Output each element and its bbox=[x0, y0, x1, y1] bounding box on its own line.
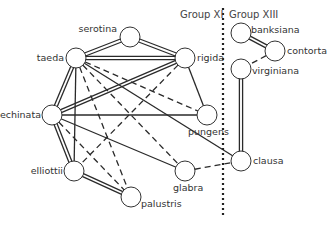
node-label-taeda: taeda bbox=[37, 52, 64, 63]
node-label-serotina: serotina bbox=[78, 23, 117, 34]
node-label-echinata: echinata bbox=[0, 109, 41, 120]
node-label-glabra: glabra bbox=[173, 182, 203, 193]
edge-virginiana-clausa bbox=[239, 69, 242, 161]
node-virginiana bbox=[231, 59, 251, 79]
node-rigida bbox=[175, 48, 195, 68]
node-label-elliottii: elliottii bbox=[31, 165, 63, 176]
node-taeda bbox=[66, 48, 86, 68]
edge-echinata-palustris bbox=[52, 115, 131, 197]
node-echinata bbox=[42, 105, 62, 125]
group-label: Group XI bbox=[180, 9, 223, 20]
node-contorta bbox=[265, 41, 285, 61]
edge-taeda-clausa bbox=[76, 58, 241, 161]
node-label-virginiana: virginiana bbox=[252, 65, 299, 76]
group-label: Group XIII bbox=[229, 9, 278, 20]
node-palustris bbox=[121, 187, 141, 207]
node-glabra bbox=[175, 161, 195, 181]
node-label-pungens: pungens bbox=[188, 126, 229, 137]
node-label-clausa: clausa bbox=[253, 155, 283, 166]
node-banksiana bbox=[231, 23, 251, 43]
node-label-contorta: contorta bbox=[287, 45, 327, 56]
node-pungens bbox=[197, 105, 217, 125]
node-elliottii bbox=[64, 161, 84, 181]
pine-crossability-diagram: serotinataedarigidaechinatapungenselliot… bbox=[0, 0, 332, 232]
group-labels: Group XIGroup XIII bbox=[180, 9, 278, 20]
node-label-palustris: palustris bbox=[141, 198, 182, 209]
edge-taeda-rigida bbox=[76, 56, 185, 59]
node-serotina bbox=[120, 27, 140, 47]
node-label-rigida: rigida bbox=[197, 52, 224, 63]
node-clausa bbox=[231, 151, 251, 171]
node-label-banksiana: banksiana bbox=[251, 24, 300, 35]
